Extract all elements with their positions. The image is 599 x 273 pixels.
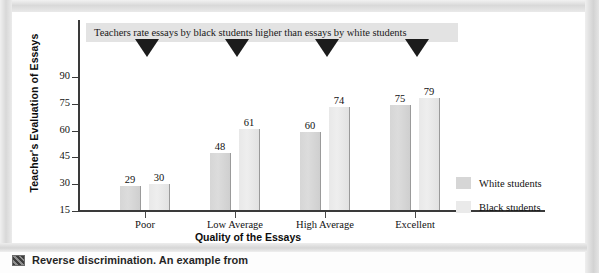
y-tick-label-60: 60 [46, 124, 70, 135]
bar-value-poor-white-students: 29 [116, 174, 144, 185]
x-axis-title: Quality of the Essays [78, 231, 418, 243]
x-category-label-excellent: Excellent [380, 219, 450, 230]
figure-caption-text: Reverse discrimination. An example from [32, 254, 248, 266]
bar-value-high-average-white-students: 60 [296, 120, 324, 131]
bar-high-average-white-students[interactable] [300, 132, 321, 210]
page-frame-divider [0, 243, 587, 252]
bar-value-poor-black-students: 30 [145, 172, 173, 183]
y-tick-75 [72, 104, 79, 105]
y-axis-title: Teacher's Evaluation of Essays [28, 33, 40, 193]
x-category-label-high-average: High Average [285, 219, 365, 230]
page-frame-left [0, 0, 12, 250]
legend-label-white-students: White students [479, 178, 542, 189]
y-tick-60 [72, 131, 79, 132]
legend-swatch-white-students [456, 177, 471, 189]
bar-value-excellent-white-students: 75 [386, 93, 414, 104]
y-tick-label-30: 30 [46, 177, 70, 188]
x-category-label-low-average: Low Average [195, 219, 275, 230]
bar-poor-white-students[interactable] [120, 186, 141, 210]
down-triangle-icon-excellent [405, 39, 429, 57]
chart-annotation-text: Teachers rate essays by black students h… [94, 27, 406, 38]
x-tick-excellent [415, 212, 416, 218]
bar-value-low-average-black-students: 61 [235, 117, 263, 128]
y-tick-30 [72, 184, 79, 185]
figure-caption: Reverse discrimination. An example from [12, 254, 248, 266]
screenshot-page: Teachers rate essays by black students h… [0, 0, 599, 273]
x-tick-low-average [235, 212, 236, 218]
x-tick-high-average [325, 212, 326, 218]
x-tick-poor [145, 212, 146, 218]
legend-label-black-students: Black students [479, 202, 541, 213]
bar-low-average-black-students[interactable] [239, 129, 260, 210]
y-tick-label-45: 45 [46, 150, 70, 161]
bar-chart: Teachers rate essays by black students h… [12, 12, 585, 243]
bar-poor-black-students[interactable] [149, 184, 170, 210]
bar-high-average-black-students[interactable] [329, 107, 350, 210]
y-tick-15 [72, 211, 79, 212]
legend-swatch-black-students [456, 201, 471, 213]
y-tick-45 [72, 157, 79, 158]
y-tick-label-75: 75 [46, 97, 70, 108]
bar-low-average-white-students[interactable] [210, 153, 231, 210]
y-tick-90 [72, 77, 79, 78]
page-frame-top [0, 0, 599, 12]
page-frame-right [585, 0, 599, 273]
bar-value-high-average-black-students: 74 [325, 95, 353, 106]
bar-value-excellent-black-students: 79 [415, 86, 443, 97]
y-tick-label-15: 15 [46, 204, 70, 215]
halftone-square-icon [12, 255, 25, 266]
legend-item-black-students[interactable]: Black students [456, 201, 541, 213]
y-tick-label-90: 90 [46, 70, 70, 81]
down-triangle-icon-low-average [225, 39, 249, 57]
legend-item-white-students[interactable]: White students [456, 177, 542, 189]
x-category-label-poor: Poor [115, 219, 175, 230]
bar-value-low-average-white-students: 48 [206, 141, 234, 152]
down-triangle-icon-high-average [315, 39, 339, 57]
down-triangle-icon-poor [135, 39, 159, 57]
bar-excellent-black-students[interactable] [419, 98, 440, 210]
bar-excellent-white-students[interactable] [390, 105, 411, 210]
